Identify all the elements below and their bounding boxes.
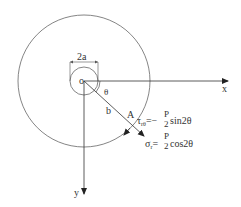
- diameter-dimension: 2a: [70, 51, 98, 81]
- normal-stress-formula: σr= P 2 cos2θ: [145, 131, 193, 151]
- origin-label: o: [79, 75, 84, 86]
- y-axis-label: y: [74, 187, 79, 198]
- point-a-label: A: [127, 109, 135, 120]
- diameter-label: 2a: [77, 51, 87, 62]
- svg-text:2: 2: [164, 141, 169, 151]
- svg-text:sin2θ: sin2θ: [170, 115, 192, 126]
- x-axis-label: x: [222, 83, 227, 94]
- radius-label: b: [106, 105, 111, 116]
- svg-text:τrθ=−: τrθ=−: [137, 115, 158, 127]
- shear-arrow: [124, 128, 130, 135]
- svg-text:2: 2: [164, 119, 169, 129]
- shear-stress-formula: τrθ=− P 2 sin2θ: [137, 109, 192, 129]
- plate-with-hole-diagram: 2a o x y θ b A τrθ=− P 2 sin2θ σr= P 2 c…: [0, 0, 241, 207]
- svg-text:P: P: [164, 109, 169, 119]
- svg-text:cos2θ: cos2θ: [170, 138, 193, 149]
- svg-text:P: P: [164, 131, 169, 141]
- radius-line: [84, 81, 144, 136]
- svg-text:σr=: σr=: [145, 138, 158, 150]
- angle-label: θ: [104, 87, 108, 97]
